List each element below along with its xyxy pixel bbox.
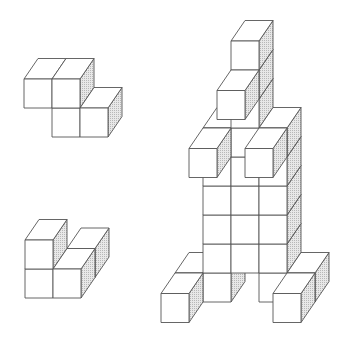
cube-front-face — [52, 108, 80, 137]
cube-front-face — [24, 79, 52, 108]
cube-front-face — [80, 108, 108, 137]
cube-front-face — [203, 215, 231, 244]
figure-small-top-left — [24, 59, 122, 138]
cube-front-face — [245, 149, 273, 178]
cube-front-face — [53, 269, 81, 298]
cube-front-face — [25, 269, 53, 298]
cube-front-face — [231, 186, 259, 215]
cube-front-face — [259, 244, 287, 273]
cube-front-face — [273, 294, 301, 323]
cube-front-face — [259, 186, 287, 215]
cube-front-face — [189, 149, 217, 178]
cube-front-face — [231, 41, 259, 70]
cube-front-face — [203, 244, 231, 273]
cube-front-face — [52, 79, 80, 108]
cube-front-face — [259, 215, 287, 244]
cube-front-face — [203, 273, 231, 302]
cube-front-face — [203, 186, 231, 215]
figure-small-bottom-left — [25, 220, 109, 299]
cube-front-face — [231, 215, 259, 244]
cube — [161, 273, 203, 323]
figures-layer — [24, 21, 329, 323]
cube-front-face — [231, 244, 259, 273]
cube-front-face — [25, 240, 53, 269]
cube-front-face — [161, 294, 189, 323]
cube-figures-canvas — [0, 0, 347, 347]
figure-large-right — [161, 21, 329, 323]
cube-front-face — [217, 91, 245, 120]
